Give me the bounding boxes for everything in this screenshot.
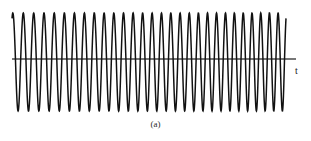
- figure-container: t (a): [0, 0, 311, 141]
- figure-caption: (a): [0, 120, 311, 129]
- waveform-plot: [0, 0, 311, 118]
- axis-label-t: t: [295, 66, 298, 76]
- plot-area: [0, 0, 311, 118]
- waveform-trace: [12, 13, 286, 111]
